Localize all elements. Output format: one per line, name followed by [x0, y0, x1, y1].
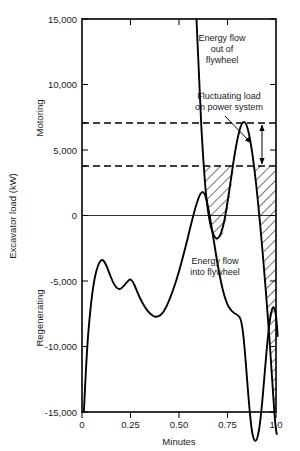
x-tick-label-1: 0.25	[121, 419, 140, 430]
y-tick-label-0: 15,000	[48, 14, 77, 25]
x-tick-label-2: 0.50	[170, 419, 189, 430]
x-tick-label-0: 0	[79, 419, 84, 430]
x-tick-label-3: 0.75	[218, 419, 237, 430]
x-tick-label-4: 1.0	[269, 419, 282, 430]
hatch-energy-in	[196, 19, 276, 430]
regenerating-label: Regenerating	[34, 289, 45, 346]
y-tick-label-1: 10,000	[48, 79, 77, 90]
annotation-energy-out-line-1: out of	[211, 44, 234, 54]
motoring-label: Motoring	[34, 100, 45, 137]
annotation-energy-out-line-2: flywheel	[206, 55, 239, 65]
x-axis-ticks	[82, 412, 276, 418]
y-tick-label-3: 0	[72, 210, 77, 221]
annotation-energy-out-line-0: Energy flow	[198, 33, 246, 43]
y-tick-label-4: -5,000	[50, 276, 77, 287]
y-axis-title: Excavator load (kW)	[7, 173, 18, 259]
annotation-energy-in: Energy flow into flywheel	[190, 256, 240, 277]
y-tick-label-5: -10,000	[45, 341, 77, 352]
y-tick-label-2: 5,000	[53, 145, 77, 156]
x-axis-ticks-top	[131, 19, 228, 25]
annotation-energy-out: Energy flow out of flywheel	[198, 33, 246, 65]
x-axis-title: Minutes	[162, 436, 196, 447]
annotation-energy-in-line-0: Energy flow	[191, 256, 239, 266]
load-curve	[84, 192, 278, 441]
chart-figure: 15,000 10,000 5,000 0 -5,000 -10,000 -15…	[0, 0, 300, 451]
annotation-fluctuating-line-0: Fluctuating load	[197, 91, 261, 101]
y-tick-label-6: -15,000	[45, 407, 77, 418]
excavator-load-chart: 15,000 10,000 5,000 0 -5,000 -10,000 -15…	[0, 0, 300, 451]
annotation-energy-in-line-1: into flywheel	[190, 267, 240, 277]
annotation-fluctuating-line-1: on power system	[195, 102, 263, 112]
